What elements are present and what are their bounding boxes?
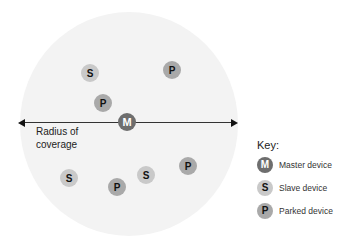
legend: Key: M Master device S Slave device P Pa…	[257, 139, 333, 225]
legend-label: Slave device	[279, 183, 327, 193]
legend-item-master: M Master device	[257, 156, 333, 173]
legend-label: Master device	[279, 160, 332, 170]
legend-item-parked: P Parked device	[257, 202, 333, 219]
slave-device: S	[137, 166, 155, 184]
parked-icon: P	[257, 203, 273, 219]
legend-title: Key:	[257, 139, 333, 151]
master-icon: M	[257, 157, 273, 173]
arrow-left-icon	[18, 119, 25, 127]
legend-label: Parked device	[279, 206, 333, 216]
parked-device: P	[108, 178, 126, 196]
legend-item-slave: S Slave device	[257, 179, 333, 196]
slave-icon: S	[257, 180, 273, 196]
parked-device: P	[179, 157, 197, 175]
master-device: M	[118, 113, 136, 131]
slave-device: S	[60, 169, 78, 187]
slave-device: S	[81, 64, 99, 82]
parked-device: P	[94, 94, 112, 112]
radius-label: Radius of coverage	[36, 125, 106, 151]
arrow-right-icon	[231, 119, 238, 127]
parked-device: P	[163, 61, 181, 79]
